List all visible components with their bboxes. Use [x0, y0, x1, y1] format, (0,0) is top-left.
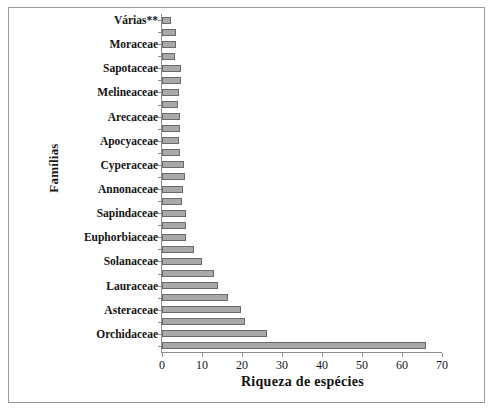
- bar: [162, 101, 178, 108]
- y-axis-category-label: Cyperaceae: [38, 159, 158, 171]
- y-axis-tick: [158, 20, 162, 21]
- bar: [162, 125, 180, 132]
- y-axis-category-labels: Várias**MoraceaeSapotaceaeMelineaceaeAre…: [38, 14, 158, 352]
- bar: [162, 65, 181, 72]
- bar: [162, 330, 267, 337]
- x-axis-tick: [202, 353, 203, 357]
- x-axis-tick-label: 50: [347, 358, 377, 373]
- bar: [162, 29, 176, 36]
- bar: [162, 258, 202, 265]
- y-axis-category-label: Apocyaceae: [38, 135, 158, 147]
- bar: [162, 137, 179, 144]
- x-axis-title: Riqueza de espécies: [160, 374, 445, 390]
- bar: [162, 17, 171, 24]
- y-axis-tick: [158, 141, 162, 142]
- x-axis-tick: [282, 353, 283, 357]
- y-axis-tick: [158, 237, 162, 238]
- bar: [162, 306, 241, 313]
- y-axis-tick: [158, 105, 162, 106]
- y-axis-tick: [158, 129, 162, 130]
- bar: [162, 41, 176, 48]
- x-axis-line: [161, 352, 442, 353]
- y-axis-tick: [158, 286, 162, 287]
- y-axis-tick: [158, 80, 162, 81]
- y-axis-tick: [158, 165, 162, 166]
- bar: [162, 89, 179, 96]
- y-axis-tick: [158, 56, 162, 57]
- chart-figure: Famílias Várias**MoraceaeSapotaceaeMelin…: [0, 0, 494, 414]
- y-axis-category-label: Melineaceae: [38, 86, 158, 98]
- bar: [162, 210, 186, 217]
- y-axis-category-label: Euphorbiaceae: [38, 231, 158, 243]
- x-axis-tick-label: 40: [307, 358, 337, 373]
- y-axis-category-label: Moraceae: [38, 38, 158, 50]
- bar: [162, 113, 180, 120]
- x-axis-tick: [162, 353, 163, 357]
- y-axis-tick: [158, 177, 162, 178]
- y-axis-tick: [158, 334, 162, 335]
- y-axis-tick: [158, 32, 162, 33]
- x-axis-tick: [322, 353, 323, 357]
- y-axis-tick: [158, 310, 162, 311]
- y-axis-tick: [158, 261, 162, 262]
- y-axis-tick: [158, 274, 162, 275]
- y-axis-tick: [158, 44, 162, 45]
- y-axis-category-label: Várias**: [38, 14, 158, 26]
- y-axis-tick: [158, 92, 162, 93]
- x-axis-tick-label: 20: [227, 358, 257, 373]
- bar: [162, 77, 181, 84]
- bar: [162, 222, 186, 229]
- y-axis-tick: [158, 117, 162, 118]
- x-axis-tick-label: 70: [427, 358, 457, 373]
- y-axis-category-label: Annonaceae: [38, 183, 158, 195]
- x-axis-tick: [242, 353, 243, 357]
- bar: [162, 282, 218, 289]
- bar: [162, 294, 228, 301]
- y-axis-category-label: Solanaceae: [38, 255, 158, 267]
- bar: [162, 186, 183, 193]
- x-axis-tick-label: 0: [147, 358, 177, 373]
- bar: [162, 234, 186, 241]
- y-axis-category-label: Orchidaceae: [38, 328, 158, 340]
- y-axis-category-label: Arecaceae: [38, 111, 158, 123]
- y-axis-tick: [158, 189, 162, 190]
- x-axis-tick-label: 60: [387, 358, 417, 373]
- bar: [162, 149, 180, 156]
- y-axis-category-label: Lauraceae: [38, 280, 158, 292]
- x-axis-tick: [362, 353, 363, 357]
- bar: [162, 318, 245, 325]
- y-axis-tick: [158, 322, 162, 323]
- y-axis-category-label: Sapotaceae: [38, 62, 158, 74]
- y-axis-tick: [158, 225, 162, 226]
- y-axis-tick: [158, 68, 162, 69]
- y-axis-tick: [158, 153, 162, 154]
- y-axis-tick: [158, 249, 162, 250]
- bar: [162, 161, 184, 168]
- x-axis-tick-label: 30: [267, 358, 297, 373]
- bar: [162, 53, 175, 60]
- bar: [162, 246, 194, 253]
- y-axis-tick: [158, 201, 162, 202]
- bar: [162, 270, 214, 277]
- bar: [162, 173, 185, 180]
- y-axis-tick: [158, 346, 162, 347]
- bar: [162, 342, 426, 349]
- plot-area: [162, 14, 442, 352]
- y-axis-category-label: Asteraceae: [38, 304, 158, 316]
- x-axis-tick: [442, 353, 443, 357]
- bar: [162, 198, 182, 205]
- y-axis-tick: [158, 298, 162, 299]
- x-axis-tick-label: 10: [187, 358, 217, 373]
- x-axis-tick: [402, 353, 403, 357]
- y-axis-tick: [158, 213, 162, 214]
- y-axis-category-label: Sapindaceae: [38, 207, 158, 219]
